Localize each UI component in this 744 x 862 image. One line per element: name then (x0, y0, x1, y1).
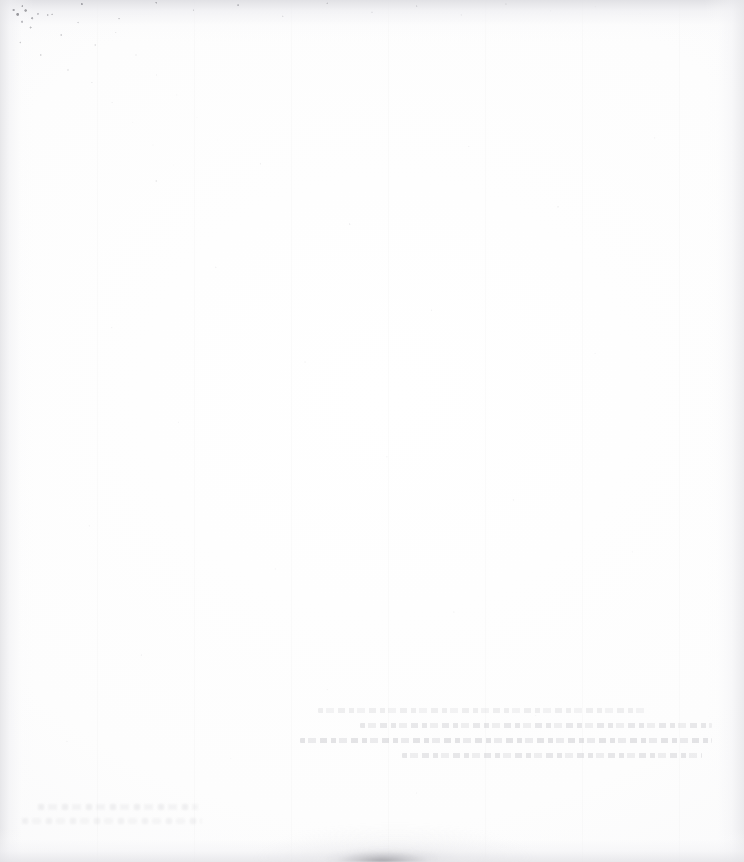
bottom-edge-shadow (0, 828, 744, 862)
showthrough-line (38, 804, 198, 810)
top-edge-shadow (0, 0, 744, 42)
top-speckle-band (0, 0, 744, 34)
bottom-smudge-halo (250, 822, 540, 862)
dust-specks (0, 0, 744, 862)
right-edge-shadow (704, 0, 744, 862)
corner-tip-artifact (8, 4, 52, 30)
bottom-edge-smudge (326, 848, 438, 862)
showthrough-text-block (300, 706, 712, 768)
showthrough-bottom-left-block (14, 800, 204, 834)
page-text-content (0, 0, 1, 1)
showthrough-line (360, 723, 712, 728)
scanned-page (0, 0, 744, 862)
showthrough-line (300, 738, 712, 743)
left-edge-shadow (0, 0, 34, 862)
showthrough-line (318, 708, 648, 713)
showthrough-line (402, 753, 702, 758)
paper-fiber-texture (0, 0, 744, 862)
paper-background (0, 0, 744, 862)
corner-grain-artifact (0, 0, 340, 250)
showthrough-line (22, 818, 202, 824)
